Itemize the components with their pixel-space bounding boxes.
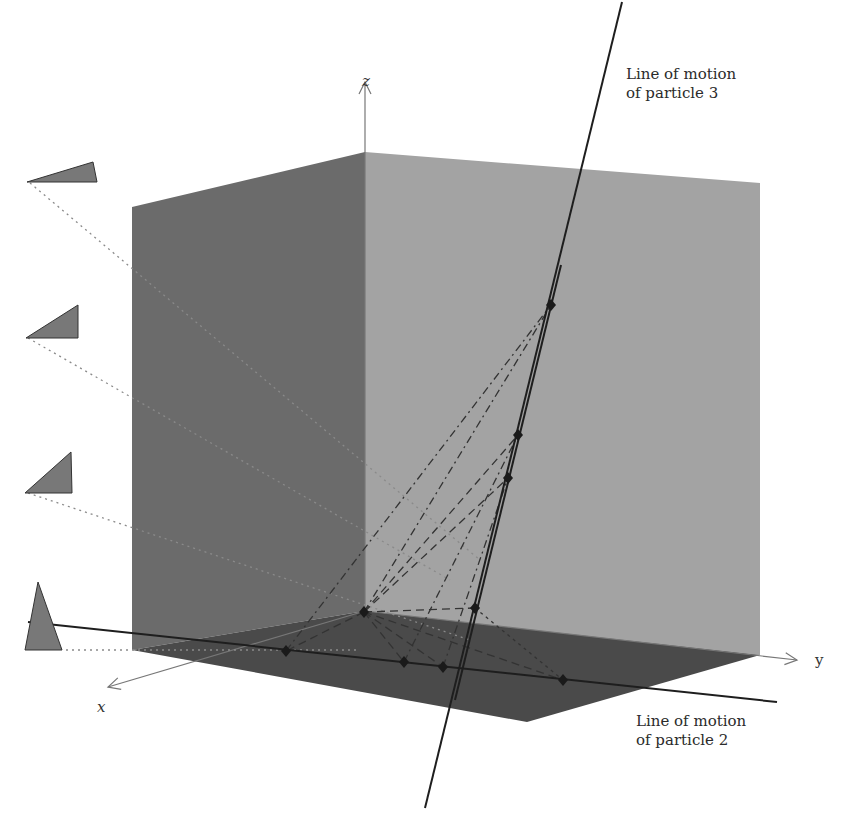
particle-3-label-line2: of particle 3 <box>626 84 736 103</box>
particle-3-label-line1: Line of motion <box>626 65 736 84</box>
triangle-1 <box>27 162 97 182</box>
shadow-triangles <box>25 162 97 650</box>
triangle-2 <box>26 305 78 338</box>
triangle-3 <box>25 452 72 493</box>
particle-2-label-line1: Line of motion <box>636 712 746 731</box>
x-axis-label: x <box>97 698 105 716</box>
y-axis-label: y <box>815 651 823 669</box>
diagram-canvas <box>0 0 855 835</box>
triangle-4 <box>25 582 62 650</box>
back-wall <box>365 152 760 655</box>
particle-3-label: Line of motion of particle 3 <box>626 65 736 103</box>
left-wall <box>132 152 365 650</box>
particle-2-label: Line of motion of particle 2 <box>636 712 746 750</box>
z-axis-label: z <box>362 72 370 90</box>
particle-2-label-line2: of particle 2 <box>636 731 746 750</box>
